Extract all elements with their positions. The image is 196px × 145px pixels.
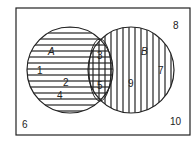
region-number-1: 1 xyxy=(37,65,43,76)
region-number-5: 5 xyxy=(97,80,103,91)
region-number-7: 7 xyxy=(158,65,164,76)
region-number-4: 4 xyxy=(57,90,63,101)
region-number-9: 9 xyxy=(128,78,134,89)
set-b-label: B xyxy=(141,46,148,57)
region-number-10: 10 xyxy=(170,116,182,127)
region-number-2: 2 xyxy=(63,77,69,88)
venn-diagram: A B 1 2 3 4 5 6 7 8 9 10 xyxy=(0,0,196,145)
region-number-3: 3 xyxy=(97,50,103,61)
region-number-6: 6 xyxy=(22,119,28,130)
set-a-label: A xyxy=(47,46,55,57)
region-number-8: 8 xyxy=(173,20,179,31)
